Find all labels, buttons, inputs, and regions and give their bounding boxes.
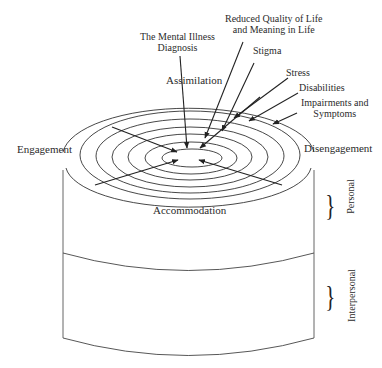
- label-line: The Mental Illness: [140, 31, 215, 42]
- label-interpersonal: Interpersonal: [346, 263, 357, 329]
- impairments-arrow-2: [200, 97, 260, 148]
- label-line: Diagnosis: [140, 42, 215, 53]
- impairments-arrow: [273, 113, 297, 124]
- label-stress: Stress: [286, 67, 310, 78]
- label-engagement: Engagement: [17, 144, 72, 155]
- label-stigma: Stigma: [253, 45, 281, 56]
- accommodation-arrow: [95, 160, 178, 185]
- label-impairments: Impairments and Symptoms: [301, 97, 368, 119]
- label-line: Impairments and: [301, 97, 368, 108]
- label-line: Symptoms: [301, 108, 368, 119]
- label-disengagement: Disengagement: [304, 143, 372, 154]
- cylinder-bottom: [63, 338, 314, 356]
- label-assimilation: Assimilation: [166, 75, 222, 86]
- label-accommodation: Accommodation: [153, 205, 226, 216]
- concentric-rings: [63, 104, 314, 207]
- cylinder-diagram: [0, 0, 382, 368]
- label-reduced-quality: Reduced Quality of Life and Meaning in L…: [225, 13, 322, 35]
- disabilities-arrow: [249, 93, 298, 121]
- label-personal: Personal: [345, 172, 356, 222]
- assimilation-arrow: [112, 127, 177, 152]
- label-line: and Meaning in Life: [225, 24, 322, 35]
- brace-personal-icon: }: [325, 190, 335, 220]
- label-mental-illness-diagnosis: The Mental Illness Diagnosis: [140, 31, 215, 53]
- label-disabilities: Disabilities: [299, 82, 345, 93]
- brace-interpersonal-icon: }: [325, 281, 335, 311]
- flow-arrows: [95, 42, 298, 185]
- label-line: Reduced Quality of Life: [225, 13, 322, 24]
- layer-divider: [63, 253, 314, 271]
